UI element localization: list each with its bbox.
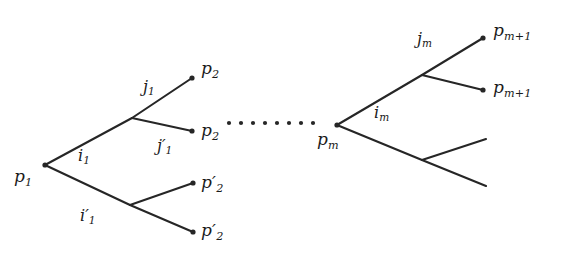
- ellipsis-dot: [287, 121, 291, 125]
- tree-edge-m_up-to-pm1_b: [422, 75, 483, 90]
- edge-label-root-to-n_dn: i′1: [80, 208, 95, 224]
- tree-diagram-figure: p1p2p2p′2p′2pmpm+1pm+1 i1i′1j1j′1imjm: [0, 0, 579, 260]
- node-label-p2_a: p2: [201, 60, 219, 77]
- node-label-root: p1: [14, 168, 32, 185]
- node-label-p2p_a: p′2: [201, 174, 223, 191]
- edge-label-m_up-to-pm1_a: jm: [417, 31, 432, 47]
- edge-label-n_up-to-p2_a: j1: [143, 79, 155, 95]
- node-dot-pm1_b: [480, 87, 485, 92]
- node-dot-p2_a: [189, 75, 194, 80]
- ellipsis-dot: [227, 121, 231, 125]
- tree-edge-n_dn-to-p2p_a: [130, 183, 193, 205]
- node-label-pm1_b: pm+1: [493, 79, 531, 96]
- tree-edge-n_up-to-p2_b: [132, 118, 192, 131]
- ellipsis-dot: [251, 121, 255, 125]
- ellipsis-dot: [275, 121, 279, 125]
- tree-edge-m_dn-to-leaf_b: [422, 160, 486, 186]
- node-dot-pm: [334, 122, 339, 127]
- node-label-p2_b: p2: [201, 122, 219, 139]
- node-label-pm: pm: [317, 131, 339, 148]
- node-label-p2p_b: p′2: [201, 222, 223, 239]
- tree-edge-pm-to-m_dn: [337, 125, 422, 160]
- tree-edge-n_up-to-p2_a: [132, 78, 192, 118]
- edge-label-root-to-n_up: i1: [78, 148, 90, 164]
- node-dot-p2_b: [189, 128, 194, 133]
- ellipsis-dot: [239, 121, 243, 125]
- tree-edge-n_dn-to-p2p_b: [130, 205, 193, 232]
- ellipsis-dots: [227, 121, 315, 125]
- edge-layer: [45, 38, 486, 232]
- edge-label-pm-to-m_up: im: [374, 105, 389, 121]
- node-label-pm1_a: pm+1: [493, 22, 531, 39]
- node-dot-layer: [42, 35, 485, 234]
- ellipsis-dot: [263, 121, 267, 125]
- edge-label-n_up-to-p2_b: j′1: [157, 138, 172, 154]
- tree-edge-root-to-n_dn: [45, 165, 130, 205]
- ellipsis-dot: [311, 121, 315, 125]
- ellipsis-dot: [299, 121, 303, 125]
- node-dot-pm1_a: [480, 35, 485, 40]
- node-dot-root: [42, 162, 47, 167]
- node-dot-p2p_a: [190, 180, 195, 185]
- tree-edge-m_dn-to-leaf_a: [422, 139, 486, 160]
- node-dot-p2p_b: [190, 229, 195, 234]
